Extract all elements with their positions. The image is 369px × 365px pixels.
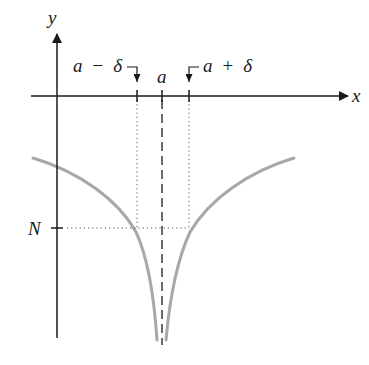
label-N: N <box>27 218 42 239</box>
limit-diagram: y x a − δ a a + δ N <box>0 0 369 365</box>
y-axis-label: y <box>46 7 57 28</box>
label-a-plus-delta-sym: δ <box>243 55 253 76</box>
curve-right-branch <box>166 158 294 340</box>
pointer-a-minus-delta-icon <box>127 67 137 82</box>
label-a: a <box>157 66 167 87</box>
label-a-minus-delta-op: − <box>93 55 104 76</box>
label-a-plus-delta-op: + <box>223 55 234 76</box>
label-a-minus-delta-var: a <box>73 55 83 76</box>
pointer-a-plus-delta-icon <box>189 67 199 82</box>
x-axis-label: x <box>351 85 361 106</box>
label-a-plus-delta-var: a <box>203 55 213 76</box>
label-a-minus-delta-sym: δ <box>113 55 123 76</box>
label-a-minus-delta: a − δ <box>73 55 123 76</box>
curve-left-branch <box>33 158 157 340</box>
function-curve <box>33 158 294 340</box>
dotted-guides <box>67 100 189 228</box>
label-a-plus-delta: a + δ <box>203 55 253 76</box>
